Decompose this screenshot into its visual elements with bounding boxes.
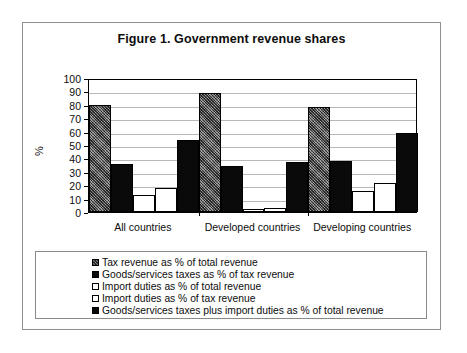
bar <box>374 183 396 212</box>
legend-item: Tax revenue as % of total revenue <box>92 256 426 268</box>
bar <box>286 162 308 212</box>
legend-swatch-icon <box>92 283 99 290</box>
bar <box>330 161 352 212</box>
y-axis-tick-0: 0 <box>75 208 81 219</box>
bar-group-developing-countries <box>308 80 418 212</box>
bar <box>133 195 155 212</box>
legend-swatch-icon <box>92 271 99 278</box>
bar <box>177 140 199 212</box>
chart-title: Figure 1. Government revenue shares <box>23 32 440 46</box>
legend-item-label: Goods/services taxes plus import duties … <box>102 305 384 316</box>
x-axis-tick-mark <box>308 211 309 216</box>
legend-item: Import duties as % of total revenue <box>92 280 426 292</box>
y-axis-tick-mark <box>84 213 88 214</box>
legend-item-label: Import duties as % of tax revenue <box>102 293 255 304</box>
legend-swatch-icon <box>92 295 99 302</box>
y-axis-tick-70: 70 <box>69 114 81 125</box>
y-axis-tick-90: 90 <box>69 87 81 98</box>
bar <box>243 209 265 212</box>
legend-item: Import duties as % of tax revenue <box>92 293 426 305</box>
plot-region: % 1009080706050403020100 All countriesDe… <box>58 79 417 239</box>
y-axis-tick-60: 60 <box>69 127 81 138</box>
bar <box>111 164 133 212</box>
bar <box>155 188 177 212</box>
legend-item: Goods/services taxes plus import duties … <box>92 305 426 317</box>
y-axis-tick-30: 30 <box>69 168 81 179</box>
y-axis-tick-100: 100 <box>63 74 81 85</box>
x-axis-label-developing-countries: Developing countries <box>313 221 411 233</box>
y-axis-tick-20: 20 <box>69 181 81 192</box>
chart-legend: Tax revenue as % of total revenueGoods/s… <box>35 251 427 319</box>
x-axis-category-labels: All countriesDeveloped countriesDevelopi… <box>88 221 417 237</box>
bar <box>199 93 221 212</box>
x-axis-label-all-countries: All countries <box>114 221 171 233</box>
x-axis-label-developed-countries: Developed countries <box>205 221 301 233</box>
bar <box>264 208 286 212</box>
y-axis-tick-10: 10 <box>69 194 81 205</box>
y-axis-tick-labels: 1009080706050403020100 <box>58 79 84 213</box>
bars-layer <box>89 80 416 212</box>
legend-item: Goods/services taxes as % of tax revenue <box>92 268 426 280</box>
y-axis-tick-80: 80 <box>69 101 81 112</box>
y-axis-title: % <box>33 146 45 156</box>
bar <box>89 105 111 212</box>
bar <box>221 166 243 212</box>
legend-swatch-icon <box>92 259 99 266</box>
x-axis-tick-mark <box>199 211 200 216</box>
figure-frame: Figure 1. Government revenue shares % 10… <box>22 22 441 330</box>
bar-group-all-countries <box>89 80 199 212</box>
bar <box>396 133 418 212</box>
bar <box>352 191 374 212</box>
plot-area <box>88 79 417 213</box>
bar <box>308 107 330 212</box>
legend-item-label: Tax revenue as % of total revenue <box>102 257 258 268</box>
y-axis-tick-40: 40 <box>69 154 81 165</box>
bar-group-developed-countries <box>199 80 309 212</box>
legend-item-label: Import duties as % of total revenue <box>102 281 261 292</box>
y-axis-tick-50: 50 <box>69 141 81 152</box>
legend-item-label: Goods/services taxes as % of tax revenue <box>102 269 294 280</box>
legend-swatch-icon <box>92 307 99 314</box>
